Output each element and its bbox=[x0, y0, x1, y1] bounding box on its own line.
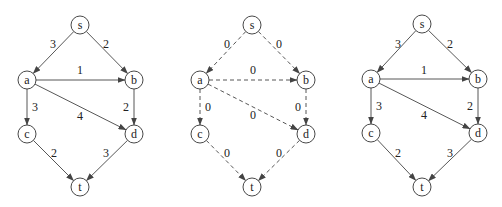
panel-original-network: 32134223sabcdt bbox=[18, 16, 143, 196]
edge-label-a-b: 1 bbox=[421, 63, 427, 77]
edge-label-s-a: 3 bbox=[395, 37, 401, 51]
edge-a-d bbox=[208, 84, 298, 130]
edge-label-c-t: 2 bbox=[51, 146, 57, 160]
edge-label-a-c: 3 bbox=[376, 99, 382, 113]
edge-label-s-b: 2 bbox=[103, 37, 109, 51]
panel-residual-network: 32134223sabcdt bbox=[362, 15, 487, 196]
node-label-b: b bbox=[131, 73, 137, 87]
edge-label-c-t: 0 bbox=[224, 146, 230, 160]
edge-label-b-d: 2 bbox=[123, 100, 129, 114]
node-label-b: b bbox=[303, 73, 309, 87]
edge-label-b-d: 2 bbox=[467, 99, 473, 113]
edge-label-d-t: 0 bbox=[276, 146, 282, 160]
node-label-s: s bbox=[420, 17, 425, 31]
edge-label-s-b: 2 bbox=[447, 37, 453, 51]
flow-network-diagram: 32134223sabcdt00000000sabcdt32134223sabc… bbox=[0, 0, 502, 207]
edge-label-a-d: 0 bbox=[250, 108, 256, 122]
edge-label-b-d: 0 bbox=[295, 100, 301, 114]
node-label-c: c bbox=[24, 127, 29, 141]
node-label-s: s bbox=[250, 18, 255, 32]
edge-label-s-a: 0 bbox=[224, 37, 230, 51]
node-label-b: b bbox=[475, 72, 481, 86]
edge-label-s-a: 3 bbox=[50, 37, 56, 51]
edge-label-a-b: 0 bbox=[250, 63, 256, 77]
node-label-c: c bbox=[197, 127, 202, 141]
node-label-c: c bbox=[368, 126, 373, 140]
edge-label-a-d: 4 bbox=[421, 108, 427, 122]
edge-label-c-t: 2 bbox=[395, 146, 401, 160]
node-label-s: s bbox=[78, 18, 83, 32]
edge-label-a-c: 3 bbox=[32, 100, 38, 114]
node-label-a: a bbox=[368, 72, 374, 86]
node-label-d: d bbox=[131, 127, 137, 141]
edge-label-a-c: 0 bbox=[205, 100, 211, 114]
edge-label-s-b: 0 bbox=[276, 37, 282, 51]
edge-a-d bbox=[379, 83, 470, 129]
edge-label-d-t: 3 bbox=[103, 146, 109, 160]
node-label-d: d bbox=[475, 126, 481, 140]
edge-label-a-d: 4 bbox=[77, 109, 83, 123]
node-label-a: a bbox=[24, 73, 30, 87]
panels-layer: 32134223sabcdt00000000sabcdt32134223sabc… bbox=[18, 15, 487, 196]
edge-label-a-b: 1 bbox=[77, 63, 83, 77]
diagram-svg: 32134223sabcdt00000000sabcdt32134223sabc… bbox=[0, 0, 502, 207]
node-label-a: a bbox=[197, 73, 203, 87]
panel-zero-flow-network: 00000000sabcdt bbox=[191, 16, 315, 196]
node-label-d: d bbox=[303, 127, 309, 141]
edge-a-d bbox=[35, 84, 126, 130]
edge-label-d-t: 3 bbox=[447, 146, 453, 160]
